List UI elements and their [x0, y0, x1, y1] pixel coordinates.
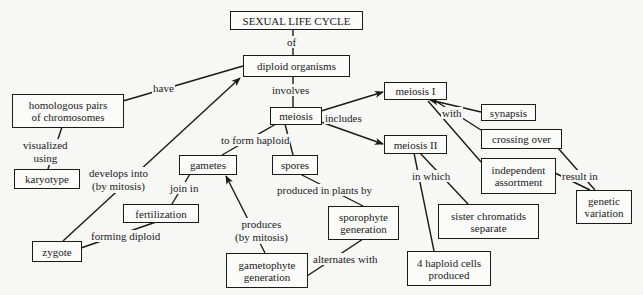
node-4-haploid-cells-produced: 4 haploid cells produced [407, 251, 491, 286]
node-gametophyte-generation: gametophyte generation [226, 253, 308, 288]
link-label-alternates-with: alternates with [312, 253, 378, 265]
node-label-line2: separate [470, 222, 506, 234]
link-label-have: have [152, 82, 175, 94]
node-label: karyotype [25, 173, 69, 185]
node-gametes: gametes [179, 155, 237, 175]
node-sporophyte-generation: sporophyte generation [328, 206, 399, 240]
link-label-includes: includes [324, 112, 363, 124]
node-sister-chromatids-separate: sister chromatids separate [438, 204, 539, 239]
link-label-develops-into: develops into (by mitosis) [88, 167, 149, 193]
node-label: zygote [42, 246, 71, 258]
node-label-line2: variation [584, 207, 623, 219]
link-label-produced-in-plants-by: produced in plants by [276, 184, 373, 196]
node-label: crossing over [492, 133, 551, 145]
link-label-line2: (by mitosis) [235, 231, 288, 244]
node-sexual-life-cycle: SEXUAL LIFE CYCLE [230, 11, 363, 30]
link-label-visualized-using: visualized using [22, 139, 69, 165]
link-label-result-in: result in [561, 170, 599, 182]
node-label-line2: generation [244, 271, 290, 283]
node-label-line1: 4 haploid cells [417, 257, 481, 269]
node-label: synapsis [490, 107, 527, 119]
node-meiosis-i: meiosis I [384, 82, 447, 100]
node-label-line2: produced [429, 269, 470, 281]
node-karyotype: karyotype [14, 169, 80, 189]
link-label-join-in: join in [169, 182, 199, 194]
node-label-line1: sporophyte [339, 211, 388, 223]
link-label-involves: involves [271, 84, 310, 96]
node-diploid-organisms: diploid organisms [243, 55, 350, 77]
node-independent-assortment: independent assortment [481, 158, 556, 194]
node-label-line2: assortment [495, 176, 543, 188]
node-label-line1: gametophyte [239, 259, 296, 271]
node-genetic-variation: genetic variation [576, 190, 632, 224]
node-synapsis: synapsis [481, 104, 536, 121]
node-label: spores [281, 159, 309, 171]
node-crossing-over: crossing over [481, 129, 562, 149]
link-label-forming-diploid: forming diploid [90, 230, 161, 242]
node-label: fertilization [135, 208, 186, 220]
node-homologous-pairs: homologous pairs of chromosomes [12, 94, 124, 128]
node-fertilization: fertilization [123, 204, 199, 223]
node-label: SEXUAL LIFE CYCLE [243, 15, 351, 27]
node-label: meiosis [279, 110, 313, 122]
node-label: meiosis I [395, 85, 435, 97]
node-label: diploid organisms [257, 60, 336, 72]
link-label-line1: develops into [89, 167, 148, 180]
node-label-line1: homologous pairs [29, 99, 108, 111]
node-label: gametes [190, 159, 226, 171]
node-label-line1: independent [492, 164, 546, 176]
link-label-with: with [441, 107, 463, 119]
link-label-line2: (by mitosis) [89, 180, 148, 193]
link-label-line1: produces [235, 218, 288, 231]
link-label-of: of [286, 36, 297, 48]
node-label: meiosis II [394, 139, 438, 151]
node-label-line2: of chromosomes [31, 111, 104, 123]
link-label-line2: using [23, 152, 68, 165]
link-label-line1: visualized [23, 139, 68, 152]
node-label-line1: genetic [588, 195, 620, 207]
concept-map: SEXUAL LIFE CYCLE diploid organisms homo… [0, 0, 643, 295]
node-zygote: zygote [32, 241, 82, 262]
link-label-in-which: in which [411, 170, 451, 182]
node-label-line2: generation [340, 223, 386, 235]
node-meiosis-ii: meiosis II [384, 135, 447, 154]
node-label-line1: sister chromatids [451, 210, 526, 222]
node-meiosis: meiosis [270, 107, 322, 125]
node-spores: spores [272, 155, 318, 175]
link-label-to-form-haploid: to form haploid [220, 134, 290, 146]
link-label-produces: produces (by mitosis) [234, 218, 289, 244]
